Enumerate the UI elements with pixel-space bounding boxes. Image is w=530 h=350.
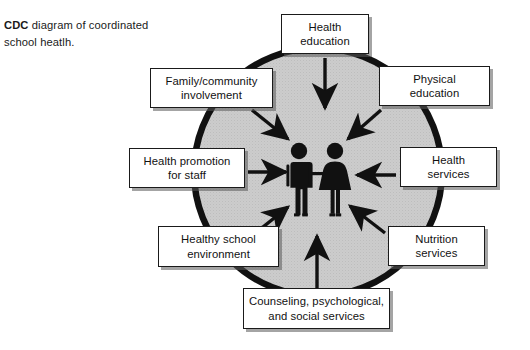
node-label: Nutrition services	[415, 232, 458, 261]
node-label: Family/community involvement	[166, 74, 258, 103]
node-health-promotion-for-staff[interactable]: Health promotion for staff	[129, 148, 245, 188]
cdc-coordinated-school-health-diagram: Health education Physical education Heal…	[0, 0, 530, 350]
node-physical-education[interactable]: Physical education	[379, 66, 490, 106]
node-health-education[interactable]: Health education	[281, 14, 369, 54]
node-label: Healthy school environment	[181, 232, 256, 261]
node-label: Health education	[300, 20, 349, 49]
node-label: Counseling, psychological, and social se…	[249, 294, 384, 323]
node-nutrition-services[interactable]: Nutrition services	[388, 226, 485, 266]
node-label: Health promotion for staff	[144, 154, 231, 183]
node-label: Health services	[428, 153, 470, 182]
node-label: Physical education	[410, 72, 459, 101]
node-healthy-school-environment[interactable]: Healthy school environment	[158, 226, 279, 267]
node-family-community-involvement[interactable]: Family/community involvement	[150, 68, 273, 108]
joined-hands	[311, 172, 324, 175]
node-counseling-psychological-social-services[interactable]: Counseling, psychological, and social se…	[243, 288, 390, 329]
node-health-services[interactable]: Health services	[400, 147, 497, 187]
